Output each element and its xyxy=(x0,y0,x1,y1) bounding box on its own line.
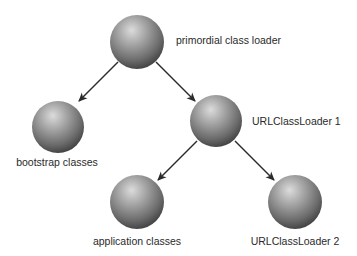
sphere-icon xyxy=(190,95,242,147)
edge-url1-to-application xyxy=(158,141,197,180)
edge-url1-to-url2 xyxy=(235,141,274,180)
class-loader-diagram: primordial class loader bootstrap classe… xyxy=(0,0,357,256)
node-primordial: primordial class loader xyxy=(110,15,282,69)
edge-primordial-to-bootstrap xyxy=(79,62,118,101)
node-bootstrap: bootstrap classes xyxy=(16,101,98,168)
sphere-icon xyxy=(110,175,164,229)
node-label-application: application classes xyxy=(93,235,181,247)
edge-primordial-to-url1 xyxy=(156,62,195,101)
node-label-url1: URLClassLoader 1 xyxy=(252,115,341,127)
sphere-icon xyxy=(268,175,322,229)
node-url2: URLClassLoader 2 xyxy=(251,175,340,247)
sphere-icon xyxy=(110,15,164,69)
sphere-icon xyxy=(32,101,84,153)
node-url1: URLClassLoader 1 xyxy=(190,95,341,147)
node-label-bootstrap: bootstrap classes xyxy=(16,156,98,168)
node-label-url2: URLClassLoader 2 xyxy=(251,235,340,247)
node-label-primordial: primordial class loader xyxy=(176,34,282,46)
edges xyxy=(79,62,274,180)
node-application: application classes xyxy=(93,175,181,247)
